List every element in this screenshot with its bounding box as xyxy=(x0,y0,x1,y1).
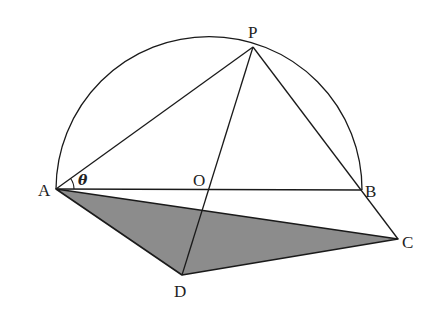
segment-ap xyxy=(56,47,253,189)
angle-theta-arc xyxy=(71,179,74,190)
label-d: D xyxy=(174,282,186,301)
semicircle-arc xyxy=(56,37,362,190)
label-theta: θ xyxy=(78,172,88,188)
label-c: C xyxy=(402,233,413,252)
segment-pc xyxy=(253,47,398,239)
label-o: O xyxy=(193,171,205,190)
shaded-triangle-acd xyxy=(56,189,398,275)
label-p: P xyxy=(248,23,257,42)
label-a: A xyxy=(38,181,51,200)
label-b: B xyxy=(365,182,376,201)
geometry-diagram: P A O B C D θ xyxy=(0,0,437,313)
